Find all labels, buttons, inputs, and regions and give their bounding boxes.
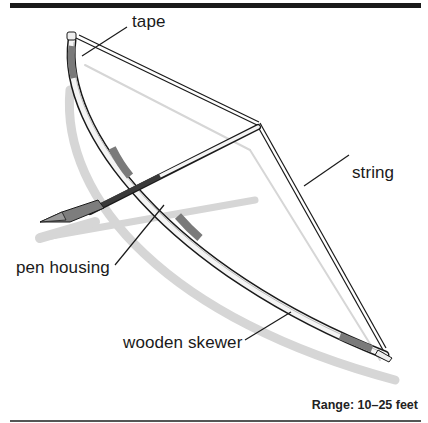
bottom-rule [10, 420, 421, 422]
leader-string [304, 155, 349, 186]
range-note: Range: 10–25 feet [312, 398, 418, 412]
tape-top [71, 46, 74, 78]
bow-illustration [0, 0, 428, 423]
leader-lines [82, 27, 349, 340]
label-wooden-skewer: wooden skewer [123, 333, 242, 353]
label-string: string [352, 163, 394, 183]
label-tape: tape [132, 12, 166, 32]
label-pen-housing: pen housing [16, 258, 110, 278]
